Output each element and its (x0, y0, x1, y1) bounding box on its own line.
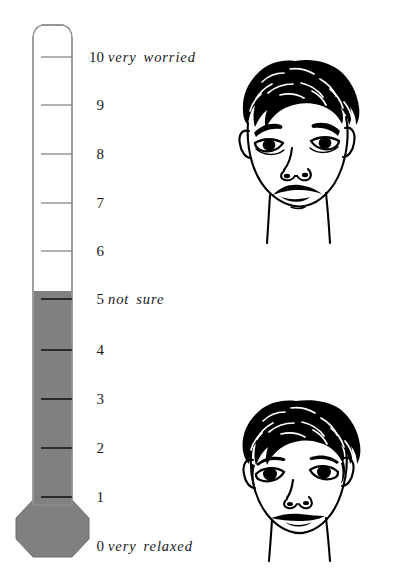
worried-neck-right (326, 193, 330, 243)
anchor-label-very-worried: very worried (108, 50, 196, 65)
scale-number-5: 5 (78, 292, 104, 307)
scale-number-8: 8 (78, 147, 104, 162)
scale-number-10: 10 (78, 50, 104, 65)
scale-number-3: 3 (78, 392, 104, 407)
relaxed-nostrils (287, 501, 309, 506)
worried-eyes (255, 137, 339, 154)
thermometer-figure[interactable]: 10 9 8 7 6 5 4 3 2 1 0 very worried not … (0, 0, 215, 585)
scale-number-1: 1 (78, 490, 104, 505)
scale-number-2: 2 (78, 441, 104, 456)
relaxed-eyes (256, 466, 338, 482)
relaxed-face-illustration (222, 398, 372, 582)
worried-mouth (273, 185, 322, 202)
relaxed-hair (243, 400, 361, 486)
scale-number-4: 4 (78, 343, 104, 358)
anchor-label-not-sure: not sure (108, 292, 164, 307)
worried-neck-left (267, 195, 270, 243)
scale-number-6: 6 (78, 244, 104, 259)
relaxed-neck-right (326, 518, 330, 561)
anchor-label-very-relaxed: very relaxed (108, 539, 193, 554)
worried-face-drawing (222, 55, 372, 270)
relaxed-mouth (271, 514, 325, 527)
worry-thermometer-page: 10 9 8 7 6 5 4 3 2 1 0 very worried not … (0, 0, 394, 585)
relaxed-face-drawing (222, 398, 372, 578)
worried-face-illustration (222, 55, 372, 274)
scale-number-0: 0 (78, 539, 104, 554)
relaxed-neck-left (269, 520, 272, 561)
scale-number-9: 9 (78, 98, 104, 113)
worried-hair (243, 60, 360, 128)
scale-number-7: 7 (78, 196, 104, 211)
